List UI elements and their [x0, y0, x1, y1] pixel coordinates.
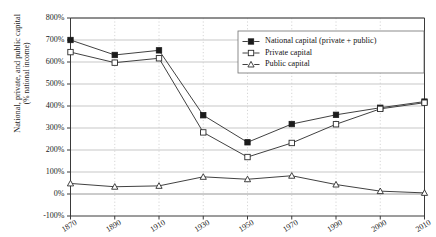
data-point-marker	[245, 154, 250, 159]
y-tick-label: 400%	[46, 101, 65, 110]
data-point-marker	[333, 122, 338, 127]
x-axis-ticks: 187018901910193019501970199020002010	[60, 216, 432, 234]
data-point-marker	[112, 60, 117, 65]
x-tick-label: 1910	[149, 218, 167, 234]
x-tick-label: 1890	[104, 218, 122, 234]
data-point-marker	[156, 56, 161, 61]
line-chart-svg: 800%700%600%500%400%300%200%100%0%-100% …	[0, 0, 436, 237]
legend-marker-open-square-icon	[248, 50, 253, 55]
x-tick-label: 1990	[326, 218, 344, 234]
data-point-marker	[333, 112, 338, 117]
data-point-marker	[112, 52, 117, 57]
y-tick-label: 700%	[46, 35, 65, 44]
y-tick-label: 100%	[46, 167, 65, 176]
legend-marker-filled-square-icon	[248, 39, 253, 44]
y-tick-label: 600%	[46, 57, 65, 66]
y-tick-label: 300%	[46, 123, 65, 132]
y-tick-label: 800%	[46, 13, 65, 22]
y-axis-label-units: (% national income)	[22, 0, 31, 159]
data-point-marker	[67, 180, 73, 186]
y-tick-label: -100%	[43, 211, 65, 220]
chart-legend: National capital (private + public)Priva…	[238, 31, 424, 73]
data-point-marker	[156, 48, 161, 53]
data-point-marker	[289, 173, 295, 179]
y-tick-label: 200%	[46, 145, 65, 154]
legend-label: National capital (private + public)	[265, 36, 377, 45]
x-tick-label: 1970	[281, 218, 299, 234]
data-point-marker	[201, 113, 206, 118]
x-tick-label: 1950	[237, 218, 255, 234]
data-point-marker	[201, 130, 206, 135]
data-point-marker	[378, 106, 383, 111]
data-point-marker	[68, 49, 73, 54]
x-tick-label: 1930	[193, 218, 211, 234]
data-point-marker	[245, 140, 250, 145]
y-tick-label: 0%	[54, 189, 65, 198]
data-point-marker	[289, 140, 294, 145]
legend-label: Private capital	[265, 48, 313, 57]
y-axis-label: National, private, and public capital (%…	[13, 0, 32, 159]
x-tick-label: 2000	[370, 218, 388, 234]
data-point-marker	[422, 100, 427, 105]
data-point-marker	[289, 121, 294, 126]
x-tick-label: 1870	[60, 218, 78, 234]
x-tick-label: 2010	[414, 218, 432, 234]
y-tick-label: 500%	[46, 79, 65, 88]
y-axis-ticks: 800%700%600%500%400%300%200%100%0%-100%	[43, 13, 70, 220]
chart-container: National, private, and public capital (%…	[0, 0, 436, 237]
legend-label: Public capital	[265, 59, 311, 68]
data-point-marker	[68, 37, 73, 42]
